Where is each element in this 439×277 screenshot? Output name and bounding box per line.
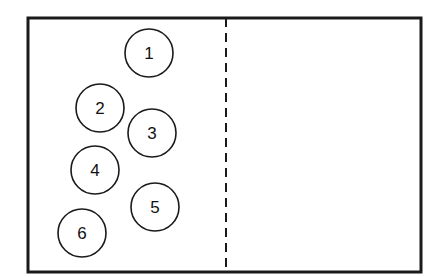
- circle-label: 4: [90, 161, 99, 180]
- diagram-canvas: 1 2 3 4 5 6: [0, 0, 439, 277]
- circle-3: 3: [128, 109, 176, 157]
- outer-frame: [28, 18, 421, 272]
- circle-label: 1: [144, 44, 153, 63]
- circle-6: 6: [58, 209, 106, 257]
- circle-label: 6: [77, 224, 86, 243]
- circle-label: 2: [95, 99, 104, 118]
- circle-label: 5: [150, 198, 159, 217]
- circle-1: 1: [125, 29, 173, 77]
- circle-label: 3: [147, 124, 156, 143]
- circle-4: 4: [71, 146, 119, 194]
- circle-2: 2: [76, 84, 124, 132]
- circle-5: 5: [131, 183, 179, 231]
